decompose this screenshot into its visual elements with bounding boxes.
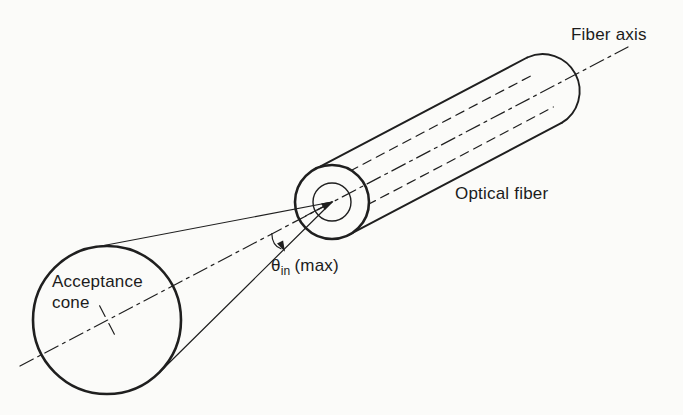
angle-arrowhead-icon (277, 241, 285, 252)
acceptance-cone-label-line2: cone (52, 292, 143, 313)
core-hidden-top-edge (323, 73, 535, 185)
figure-canvas: Fiber axis Optical fiber θin(max) Accept… (0, 0, 683, 415)
cylinder-far-end-cap (527, 54, 579, 123)
cylinder-bottom-edge (349, 123, 561, 235)
acceptance-cone-label-line1: Acceptance (52, 271, 143, 292)
angle-arc (272, 234, 281, 249)
fiber-axis-label: Fiber axis (571, 24, 647, 45)
acceptance-angle-label: θin(max) (271, 255, 339, 282)
optical-fiber-label: Optical fiber (455, 183, 548, 204)
fiber-diagram (0, 0, 683, 415)
theta-symbol: θ (271, 256, 281, 275)
theta-max-suffix: (max) (294, 256, 338, 275)
acceptance-cone-label: Acceptance cone (52, 271, 143, 313)
cone-lower-edge (159, 202, 332, 373)
cylinder-top-edge (315, 58, 527, 170)
cone-upper-edge (93, 202, 332, 248)
theta-subscript: in (281, 264, 291, 278)
